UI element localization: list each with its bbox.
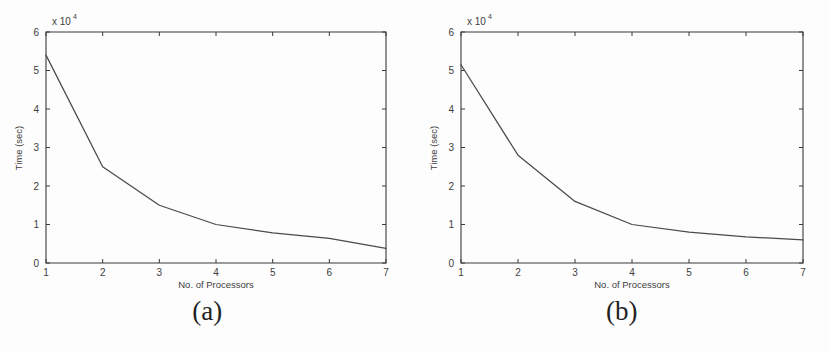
y-tick-labels-a: 0123456 — [33, 27, 39, 269]
y-tick-label-4: 4 — [448, 104, 454, 115]
axes-box-b — [461, 32, 803, 263]
y-tick-label-5: 5 — [448, 65, 454, 76]
y-tick-label-4: 4 — [33, 104, 39, 115]
y-axis-title-b: Time (sec) — [428, 126, 439, 171]
x-axis-title-a: No. of Processors — [178, 279, 254, 290]
plot-frame-b — [461, 32, 803, 263]
plot-frame-a — [46, 32, 386, 263]
x-ticks-b — [461, 32, 803, 263]
panel-caption-b: (b) — [415, 296, 829, 327]
axes-box-a — [46, 32, 386, 263]
x-tick-label-1: 1 — [458, 267, 464, 278]
y-tick-label-2: 2 — [448, 181, 454, 192]
y-tick-label-6: 6 — [33, 27, 39, 38]
y-tick-label-0: 0 — [448, 258, 454, 269]
chart-svg-b: 1234567 0123456 No. of Processors Time (… — [415, 0, 829, 300]
plot-b: 1234567 0123456 No. of Processors Time (… — [415, 0, 829, 300]
x-tick-label-7: 7 — [383, 267, 389, 278]
x-tick-label-3: 3 — [572, 267, 578, 278]
y-ticks-b — [461, 32, 803, 263]
y-exponent-power-a: 4 — [73, 13, 77, 20]
x-tick-label-1: 1 — [43, 267, 49, 278]
series-line-a — [46, 55, 386, 248]
plot-a: 1234567 0123456 No. of Processors Time (… — [0, 0, 415, 300]
y-ticks-a — [46, 32, 386, 263]
x-ticks-a — [46, 32, 386, 263]
y-exponent-label-a: x 10 — [52, 16, 71, 27]
x-tick-label-2: 2 — [515, 267, 521, 278]
x-tick-label-2: 2 — [100, 267, 106, 278]
y-tick-label-5: 5 — [33, 65, 39, 76]
x-tick-label-5: 5 — [270, 267, 276, 278]
x-tick-label-5: 5 — [686, 267, 692, 278]
x-tick-label-4: 4 — [213, 267, 219, 278]
x-tick-label-6: 6 — [327, 267, 333, 278]
y-tick-label-3: 3 — [448, 142, 454, 153]
y-tick-label-2: 2 — [33, 181, 39, 192]
x-tick-label-6: 6 — [743, 267, 749, 278]
chart-svg-a: 1234567 0123456 No. of Processors Time (… — [0, 0, 415, 300]
y-tick-label-0: 0 — [33, 258, 39, 269]
x-tick-label-4: 4 — [629, 267, 635, 278]
panel-b: 1234567 0123456 No. of Processors Time (… — [415, 0, 829, 353]
x-axis-title-b: No. of Processors — [594, 279, 670, 290]
y-tick-label-1: 1 — [448, 219, 454, 230]
series-line-b — [461, 65, 803, 240]
x-tick-labels-a: 1234567 — [43, 267, 389, 278]
x-tick-label-7: 7 — [800, 267, 806, 278]
panel-caption-a: (a) — [0, 296, 415, 327]
y-axis-title-a: Time (sec) — [13, 126, 24, 171]
y-tick-label-3: 3 — [33, 142, 39, 153]
y-tick-labels-b: 0123456 — [448, 27, 454, 269]
x-tick-labels-b: 1234567 — [458, 267, 806, 278]
y-exponent-label-b: x 10 — [467, 16, 486, 27]
figure-row: 1234567 0123456 No. of Processors Time (… — [0, 0, 829, 353]
y-tick-label-1: 1 — [33, 219, 39, 230]
panel-a: 1234567 0123456 No. of Processors Time (… — [0, 0, 415, 353]
y-tick-label-6: 6 — [448, 27, 454, 38]
y-exponent-power-b: 4 — [488, 13, 492, 20]
x-tick-label-3: 3 — [157, 267, 163, 278]
